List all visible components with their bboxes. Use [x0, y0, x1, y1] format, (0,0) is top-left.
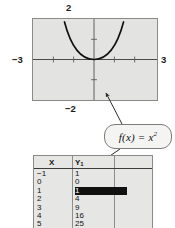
axis-label-ymin: −2 — [65, 104, 76, 114]
axis-label-ymax: 2 — [66, 3, 71, 13]
table-cell-y1[interactable]: 25 — [75, 220, 113, 228]
table-column-y1[interactable]: 101491625 — [75, 170, 113, 228]
figure-root: 2 −2 −3 3 f(x) = x2 X Y1 −1012345 101491… — [0, 0, 175, 228]
table-cell-x[interactable]: 2 — [37, 195, 71, 203]
table-cell-y1[interactable]: 0 — [75, 178, 113, 186]
table-cell-x[interactable]: 0 — [37, 178, 71, 186]
axis-label-xmax: 3 — [161, 55, 166, 65]
table-cell-y1-selected[interactable]: 1 — [75, 187, 127, 195]
calculator-table-screen: X Y1 −1012345 101491625 — [33, 155, 153, 228]
header-divider — [34, 168, 152, 169]
table-cell-x[interactable]: 4 — [37, 212, 71, 220]
table-cell-x[interactable]: −1 — [37, 170, 71, 178]
table-header-x: X — [49, 157, 54, 168]
table-cell-x[interactable]: 5 — [37, 220, 71, 228]
axis-label-xmin: −3 — [12, 55, 23, 65]
table-header-y1-sub: 1 — [80, 161, 83, 167]
column-divider-1 — [72, 156, 73, 228]
graphing-calculator-screen — [32, 18, 158, 101]
table-cell-y1[interactable]: 4 — [75, 195, 113, 203]
parabola-plot — [33, 19, 157, 100]
callout-formula-exponent: 2 — [153, 130, 157, 138]
table-cell-y1[interactable]: 1 — [75, 170, 113, 178]
callout-formula-lhs: f(x) = x — [119, 131, 154, 143]
table-grid: X Y1 −1012345 101491625 — [34, 156, 152, 228]
callout-formula: f(x) = x2 — [119, 130, 157, 143]
table-column-x[interactable]: −1012345 — [37, 170, 71, 228]
table-cell-x[interactable]: 3 — [37, 204, 71, 212]
callout-bubble: f(x) = x2 — [104, 124, 172, 149]
table-header-y1: Y1 — [75, 157, 84, 169]
table-cell-x[interactable]: 1 — [37, 187, 71, 195]
